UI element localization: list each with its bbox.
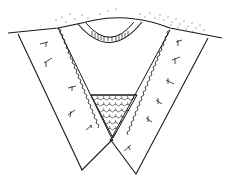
- left-bevel-fusion-line: [58, 28, 113, 141]
- diagram-canvas: V-groove weld cross-section line drawing: [0, 0, 228, 182]
- weld-cross-section-drawing: [0, 0, 228, 182]
- weld-cap: [78, 22, 142, 43]
- surface-line: [8, 9, 222, 39]
- root-pass: [91, 95, 137, 138]
